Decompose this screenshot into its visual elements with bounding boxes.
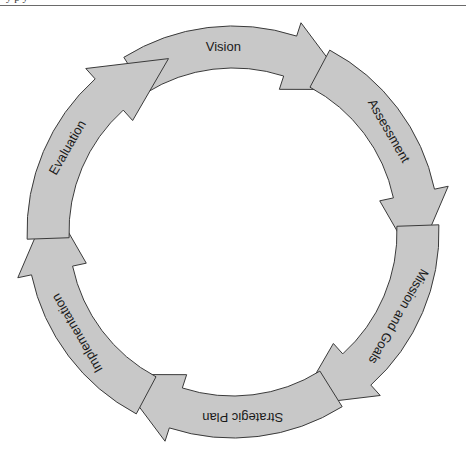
stage-label: Strategic Plan	[202, 410, 283, 425]
cycle-diagram: VisionAssessmentMission and GoalsStrateg…	[0, 0, 466, 453]
stage-label: Vision	[206, 39, 241, 54]
cycle-arrow-evaluation	[27, 59, 169, 240]
